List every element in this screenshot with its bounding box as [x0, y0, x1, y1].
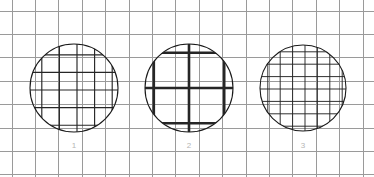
sample-label-1: 1	[72, 141, 77, 150]
sample-label-3: 3	[301, 141, 306, 150]
mesh-sample-1-mesh	[28, 42, 120, 134]
mesh-samples-group	[28, 42, 348, 134]
mesh-sample-3-mesh	[258, 43, 348, 133]
mesh-sample-2-mesh	[143, 42, 235, 134]
mesh-sample-2	[143, 42, 235, 134]
sample-label-2: 2	[187, 141, 192, 150]
mesh-sample-1	[28, 42, 120, 134]
mesh-comparison-figure: 123	[0, 0, 374, 177]
sample-labels-group: 123	[72, 141, 306, 150]
figure-canvas: 123	[0, 0, 374, 177]
mesh-sample-1-outline	[30, 44, 118, 132]
mesh-sample-3	[258, 43, 348, 133]
